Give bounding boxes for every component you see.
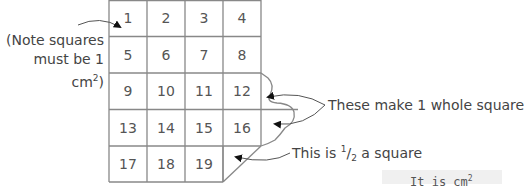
grid-cell: 6	[147, 37, 185, 74]
answer-strip: It is cm2	[382, 170, 502, 184]
grid-cell: 19	[185, 146, 223, 183]
grid-cell: 18	[147, 146, 185, 183]
grid-cell: 10	[147, 73, 185, 110]
grid-cell: 3	[185, 0, 223, 37]
grid-cell: 16	[223, 110, 261, 147]
grid-cell: 2	[147, 0, 185, 37]
grid-cell: 13	[109, 110, 147, 147]
grid-cell: 11	[185, 73, 223, 110]
grid-cell: 9	[109, 73, 147, 110]
grid-cell: 7	[185, 37, 223, 74]
grid-cell: 14	[147, 110, 185, 147]
grid-cell: 5	[109, 37, 147, 74]
whole-square-label: These make 1 whole square	[328, 97, 524, 113]
grid-cell: 1	[109, 0, 147, 37]
grid-cell: 4	[223, 0, 261, 37]
half-square-label: This is 1/2 a square	[292, 144, 422, 163]
grid-cell: 12	[223, 73, 261, 110]
grid-cell: 17	[109, 146, 147, 183]
grid-cell: 15	[185, 110, 223, 147]
grid-cell: 8	[223, 37, 261, 74]
